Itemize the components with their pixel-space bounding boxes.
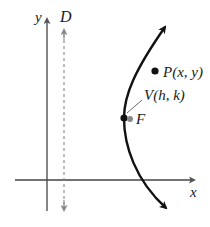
y-axis-label: y xyxy=(33,9,42,25)
x-axis-label: x xyxy=(189,184,197,200)
point-p-marker xyxy=(151,67,158,74)
focus-label: F xyxy=(135,111,146,127)
parabola-diagram: y x D P(x, y) V(h, k) F xyxy=(0,0,210,227)
directrix-label: D xyxy=(59,8,72,25)
point-p-label: P(x, y) xyxy=(162,64,203,81)
focus-point-marker xyxy=(127,116,133,122)
point-v-marker xyxy=(120,114,127,121)
point-v-label: V(h, k) xyxy=(144,87,185,104)
